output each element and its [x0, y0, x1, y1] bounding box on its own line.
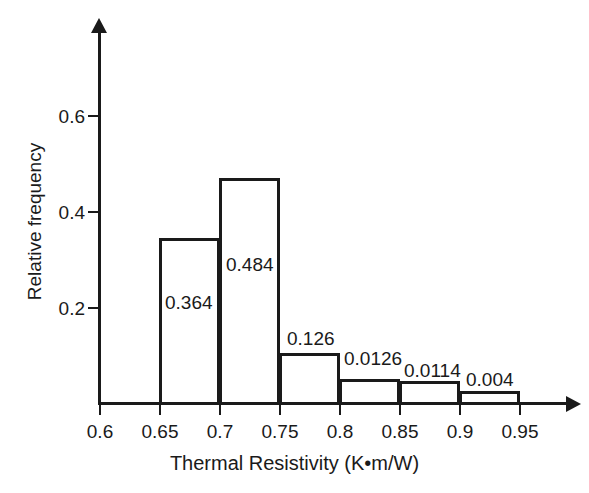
x-tick-label: 0.95 — [490, 421, 550, 443]
x-tick-mark — [519, 404, 521, 415]
x-tick-mark — [399, 404, 401, 415]
histogram-bar — [459, 391, 520, 403]
bar-value-label: 0.0126 — [344, 349, 402, 368]
bar-value-label: 0.126 — [287, 329, 335, 348]
x-tick-label: 0.85 — [370, 421, 430, 443]
histogram-chart: 0.2 0.4 0.6 0.6 0.65 0.7 0.75 0.8 0.85 0… — [0, 0, 589, 493]
histogram-bar — [279, 353, 340, 403]
bar-value-label: 0.364 — [165, 293, 213, 312]
bar-value-label: 0.0114 — [404, 361, 461, 380]
y-axis-title: Relative frequency — [25, 122, 44, 322]
x-tick-label: 0.6 — [70, 421, 130, 443]
x-tick-label: 0.7 — [190, 421, 250, 443]
bar-value-label: 0.004 — [466, 370, 514, 389]
x-tick-label: 0.9 — [430, 421, 490, 443]
histogram-bar — [219, 178, 280, 403]
x-tick-mark — [279, 404, 281, 415]
x-tick-mark — [159, 404, 161, 415]
x-axis-arrow-icon — [566, 396, 581, 412]
x-tick-mark — [219, 404, 221, 415]
x-tick-label: 0.75 — [250, 421, 310, 443]
histogram-bar — [159, 238, 220, 403]
x-tick-mark — [99, 404, 101, 415]
y-tick-label: 0.4 — [5, 203, 85, 222]
y-tick-mark — [88, 211, 99, 213]
x-tick-label: 0.8 — [310, 421, 370, 443]
y-tick-label: 0.6 — [5, 107, 85, 126]
x-tick-mark — [339, 404, 341, 415]
y-axis-line — [98, 30, 101, 404]
y-axis-arrow-icon — [91, 18, 107, 33]
y-tick-mark — [88, 115, 99, 117]
histogram-bar — [399, 381, 460, 403]
y-tick-mark — [88, 307, 99, 309]
y-tick-label: 0.2 — [5, 299, 85, 318]
x-tick-mark — [459, 404, 461, 415]
histogram-bar — [339, 379, 400, 403]
bar-value-label: 0.484 — [226, 255, 274, 274]
x-axis-title: Thermal Resistivity (K•m/W) — [0, 452, 589, 474]
x-tick-label: 0.65 — [130, 421, 190, 443]
